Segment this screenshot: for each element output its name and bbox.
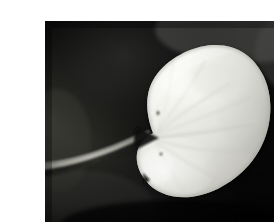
film-grain-overlay	[45, 21, 274, 222]
photo-page: Black and white photograph of a heart-sh…	[0, 0, 274, 222]
leaf-photograph: Black and white photograph of a heart-sh…	[45, 21, 274, 222]
leaf-photo-canvas	[45, 21, 274, 222]
